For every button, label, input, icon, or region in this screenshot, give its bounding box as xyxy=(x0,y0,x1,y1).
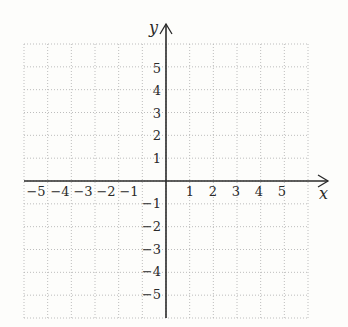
x-tick-label: −3 xyxy=(73,184,92,199)
y-tick-label: 1 xyxy=(153,151,161,166)
coordinate-plane-svg: y x −5 −4 −3 −2 −1 1 2 3 4 5 5 4 3 2 1 −… xyxy=(0,0,348,327)
y-tick-label: −4 xyxy=(142,264,161,279)
x-axis-label: x xyxy=(319,184,328,203)
x-tick-label: 3 xyxy=(232,184,240,199)
x-tick-label: 2 xyxy=(209,184,217,199)
y-tick-label: −3 xyxy=(142,242,161,257)
y-tick-label: 2 xyxy=(153,128,161,143)
x-tick-label: −4 xyxy=(50,184,69,199)
x-tick-label: −5 xyxy=(26,184,45,199)
y-axis-label: y xyxy=(148,18,159,37)
y-tick-label: 4 xyxy=(153,83,161,98)
axes: y x xyxy=(24,18,328,318)
y-tick-label: −1 xyxy=(142,196,161,211)
x-tick-label: 1 xyxy=(186,184,194,199)
coordinate-plane: y x −5 −4 −3 −2 −1 1 2 3 4 5 5 4 3 2 1 −… xyxy=(0,0,348,327)
x-tick-label: 5 xyxy=(278,184,286,199)
y-tick-label: 5 xyxy=(153,61,161,76)
x-tick-label: −1 xyxy=(119,184,138,199)
y-tick-label: 3 xyxy=(153,106,161,121)
x-tick-label: −2 xyxy=(96,184,115,199)
x-tick-label: 4 xyxy=(255,184,263,199)
y-tick-label: −2 xyxy=(142,219,161,234)
y-tick-label: −5 xyxy=(142,287,161,302)
